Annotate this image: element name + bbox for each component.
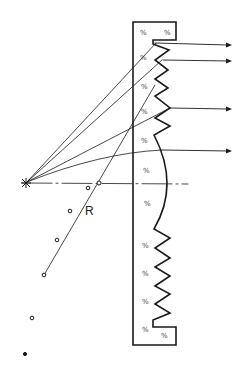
svg-text:%: % (141, 137, 148, 145)
svg-text:%: % (142, 270, 149, 278)
svg-text:%: % (140, 29, 147, 37)
svg-text:%: % (142, 242, 149, 250)
focal-point-icon (21, 178, 31, 188)
svg-text:%: % (141, 108, 148, 116)
svg-text:%: % (161, 332, 168, 340)
svg-text:%: % (164, 29, 171, 37)
svg-text:%: % (144, 200, 151, 208)
arrow-icon (226, 149, 232, 154)
svg-text:%: % (140, 54, 147, 62)
radius-label: R (85, 204, 94, 218)
arrow-icon (226, 43, 232, 48)
exit-rays (155, 43, 228, 151)
optical-axis (22, 183, 188, 184)
arrowheads (226, 43, 232, 154)
arrow-icon (226, 107, 232, 112)
svg-text:%: % (141, 83, 148, 91)
fresnel-lens-diagram: R % % % % % % % % % % % % % (0, 0, 246, 365)
svg-text:%: % (142, 326, 149, 334)
arrow-icon (226, 59, 232, 64)
svg-text:%: % (143, 167, 150, 175)
rays (27, 43, 168, 275)
svg-text:%: % (142, 298, 149, 306)
